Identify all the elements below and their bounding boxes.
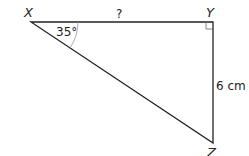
side-xy-label: ? [116,8,122,20]
right-angle-marker [206,22,213,29]
vertex-label-y: Y [206,6,214,19]
triangle-diagram [0,0,249,156]
angle-x-label: 35° [56,26,77,38]
side-yz-label: 6 cm [216,80,246,92]
triangle-xyz [31,22,213,143]
vertex-label-x: X [24,6,33,19]
vertex-label-z: Z [207,146,216,156]
